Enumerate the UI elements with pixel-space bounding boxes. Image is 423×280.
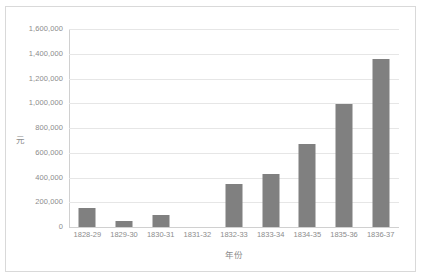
x-tick-label: 1836-37 [362,230,399,239]
y-tick-label: 1,600,000 [29,24,63,33]
y-axis-title: 元 [16,133,25,145]
bar-slot [142,29,179,227]
x-axis-tick-labels: 1828-29 1829-30 1830-31 1831-32 1832-33 … [69,230,399,244]
bar-1836-37[interactable] [372,59,389,227]
x-tick-label: 1828-29 [69,230,106,239]
bar-1833-34[interactable] [262,174,279,227]
y-tick-label: 600,000 [35,148,63,157]
bar-1828-29[interactable] [79,208,96,227]
bar-slot [326,29,363,227]
y-tick-label: 400,000 [35,173,63,182]
y-tick-label: 0 [59,222,63,231]
bar-1832-33[interactable] [225,184,242,227]
x-tick-label: 1835-36 [326,230,363,239]
chart-frame: 1,600,000 1,400,000 1,200,000 1,000,000 … [5,6,416,272]
x-tick-label: 1831-32 [179,230,216,239]
y-tick-label: 1,200,000 [29,74,63,83]
y-tick-label: 1,000,000 [29,98,63,107]
gridline-zero [69,227,399,228]
x-tick-label: 1830-31 [142,230,179,239]
bar-slot [69,29,106,227]
y-tick-label: 800,000 [35,123,63,132]
x-tick-label: 1832-33 [216,230,253,239]
y-axis-tick-labels: 1,600,000 1,400,000 1,200,000 1,000,000 … [6,7,65,273]
bar-slot [362,29,399,227]
x-tick-label: 1834-35 [289,230,326,239]
bar-slot [106,29,143,227]
x-tick-label: 1833-34 [252,230,289,239]
x-axis-title: 年份 [69,248,399,260]
bar-slot [216,29,253,227]
plot-area [69,29,399,227]
y-tick-label: 1,400,000 [29,49,63,58]
bar-slot [252,29,289,227]
bar-slot [289,29,326,227]
bar-1830-31[interactable] [152,215,169,227]
bar-slot [179,29,216,227]
y-tick-label: 200,000 [35,197,63,206]
bar-1835-36[interactable] [335,104,352,227]
bar-1834-35[interactable] [299,144,316,227]
x-tick-label: 1829-30 [106,230,143,239]
bar-1829-30[interactable] [115,221,132,227]
